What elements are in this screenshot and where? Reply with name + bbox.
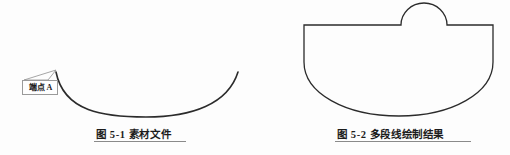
figure-caption-5-1-rule xyxy=(94,141,186,142)
arc-curve xyxy=(56,72,238,117)
figure-caption-5-1: 图 5-1 素材文件 xyxy=(96,126,171,141)
polyline-result-shape xyxy=(304,3,493,116)
leader-line xyxy=(24,70,56,80)
figure-caption-5-2: 图 5-2 多段线绘制结果 xyxy=(337,126,444,141)
endpoint-callout-label: 端点 A xyxy=(23,81,58,95)
figure-caption-5-2-rule xyxy=(335,141,471,142)
figure-page: 端点 A 图 5-1 素材文件 图 5-2 多段线绘制结果 xyxy=(0,0,510,155)
figure-5-2-graphic xyxy=(304,3,493,116)
